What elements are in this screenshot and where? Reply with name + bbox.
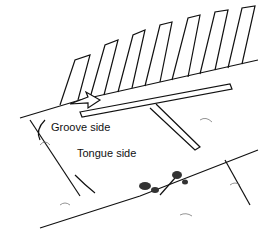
groove-side-label: Groove side xyxy=(50,121,111,133)
line-drawing xyxy=(0,0,260,236)
illustration: Groove side Tongue side xyxy=(0,0,260,236)
tongue-side-label: Tongue side xyxy=(76,147,137,159)
